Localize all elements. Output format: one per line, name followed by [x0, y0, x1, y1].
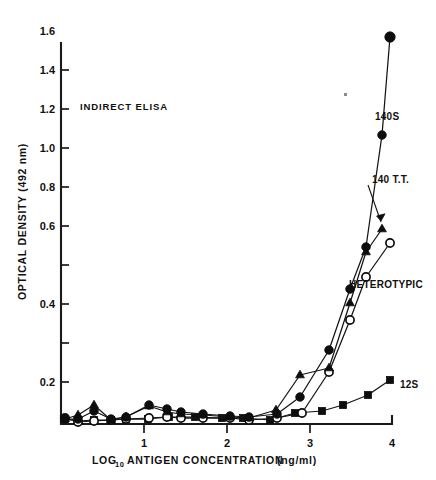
- y-tick-label-1.2: 1.2: [40, 103, 55, 115]
- x-tick-label-3: 3: [307, 437, 313, 449]
- series-heterotypic-line: [65, 243, 390, 422]
- elisa-dose-response-chart: 0.2 0.4 0.6 0.8 1.0 1.2 1.4 1.6 1 2 3 4 …: [0, 0, 436, 480]
- x-tick-label-1: 1: [141, 437, 147, 449]
- x-axis-title: LOG 10 ANTIGEN CONCENTRATION (ng/ml): [92, 454, 317, 469]
- y-tick-label-0.4: 0.4: [40, 298, 56, 310]
- series-140tt-line: [65, 229, 382, 420]
- y-tick-label-0.8: 0.8: [40, 181, 55, 193]
- indirect-elisa-annotation: INDIRECT ELISA: [80, 101, 168, 112]
- y-tick-marks: [61, 70, 69, 382]
- y-tick-label-1.6: 1.6: [40, 25, 55, 37]
- figure-container: 0.2 0.4 0.6 0.8 1.0 1.2 1.4 1.6 1 2 3 4 …: [0, 0, 436, 480]
- y-tick-labels: 0.2 0.4 0.6 0.8 1.0 1.2 1.4 1.6: [40, 25, 56, 388]
- y-tick-label-1.4: 1.4: [40, 64, 56, 76]
- x-tick-label-2: 2: [224, 437, 230, 449]
- series-label-140tt: 140 T.T.: [372, 174, 409, 185]
- x-tick-label-4: 4: [389, 437, 396, 449]
- y-tick-label-0.6: 0.6: [40, 220, 55, 232]
- series-label-12s: 12S: [400, 379, 419, 390]
- y-axis-title-text: OPTICAL DENSITY (492 nm): [16, 143, 28, 300]
- series-140s: 140S: [61, 32, 400, 424]
- series-140s-line: [65, 37, 390, 419]
- x-axis-title-main: ANTIGEN CONCENTRATION: [127, 454, 283, 466]
- x-tick-marks: [144, 424, 310, 433]
- series-label-140s: 140S: [375, 111, 399, 122]
- series-heterotypic-markers: [61, 239, 394, 426]
- series-label-heterotypic: HETEROTYPIC: [349, 279, 423, 290]
- scan-speck-artifact: [344, 93, 347, 96]
- series-140tt: 140 T.T.: [61, 174, 409, 423]
- y-axis-title: OPTICAL DENSITY (492 nm): [16, 143, 28, 300]
- series-140s-markers: [61, 32, 395, 424]
- y-tick-label-0.2: 0.2: [40, 376, 55, 388]
- x-axis-title-units: (ng/ml): [277, 454, 317, 466]
- x-axis-title-subscript: 10: [115, 460, 125, 469]
- x-axis-title-prefix: LOG: [92, 454, 117, 466]
- y-tick-label-1.0: 1.0: [40, 142, 55, 154]
- x-tick-labels: 1 2 3 4: [141, 437, 396, 449]
